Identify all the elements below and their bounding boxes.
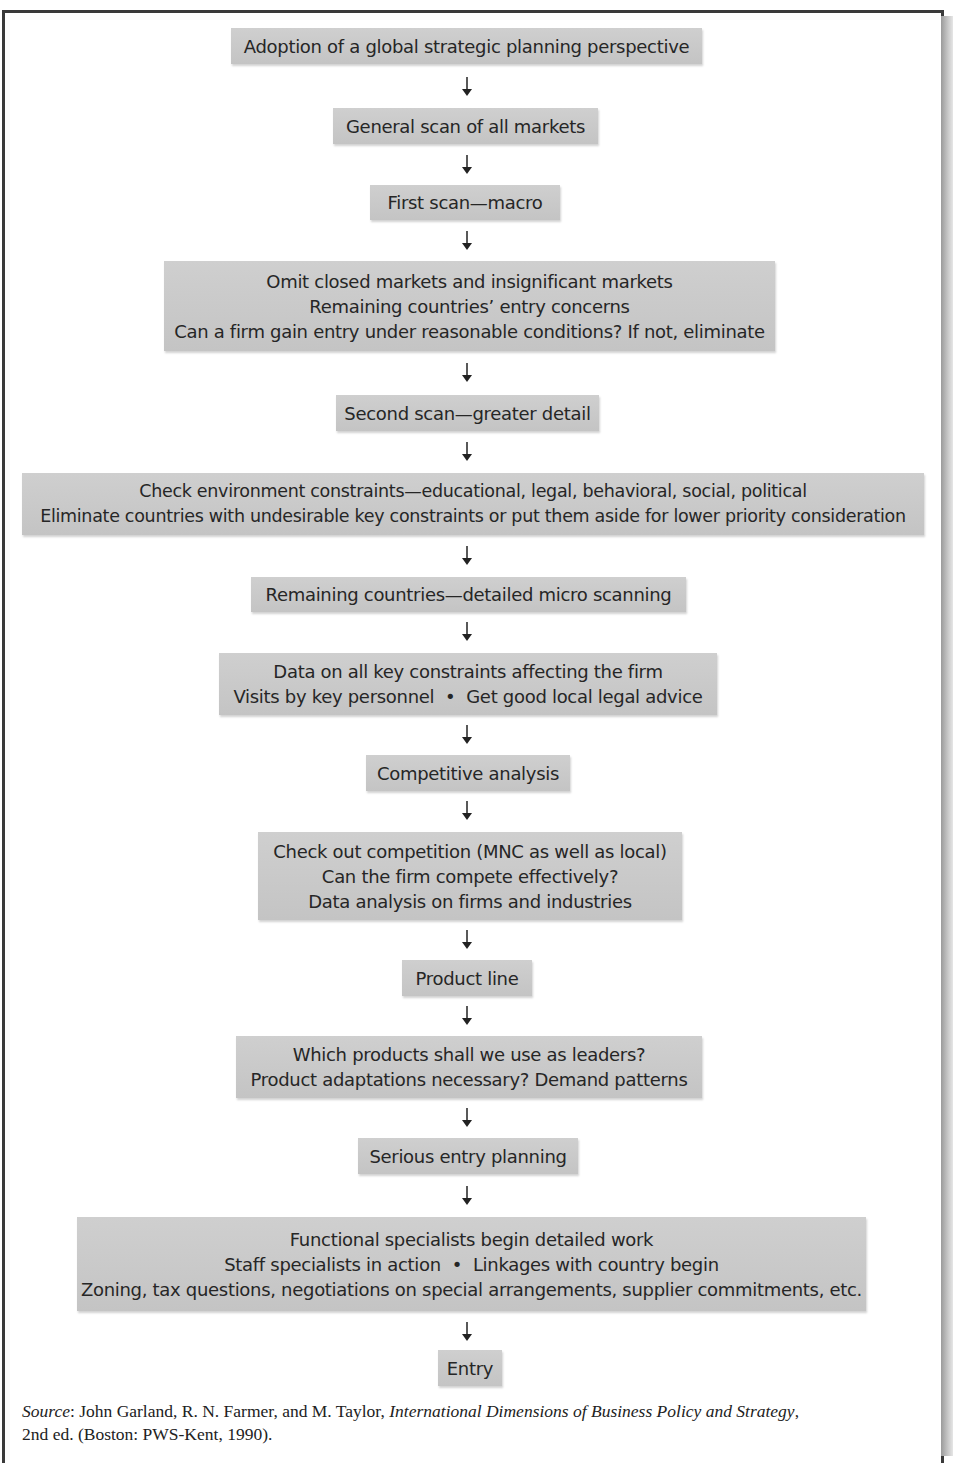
down-arrow-icon (461, 546, 473, 566)
step-entry: Entry (438, 1350, 502, 1386)
down-arrow-icon (461, 622, 473, 642)
step-text: Entry (447, 1356, 493, 1381)
step-text: Product line (416, 966, 519, 991)
down-arrow-icon (461, 1322, 473, 1342)
down-arrow-icon (461, 725, 473, 745)
step-omit-closed-markets: Omit closed markets and insignificant ma… (164, 261, 775, 351)
step-text: Data analysis on firms and industries (308, 889, 632, 914)
source-line-1: Source: John Garland, R. N. Farmer, and … (22, 1400, 937, 1423)
down-arrow-icon (461, 363, 473, 383)
step-second-scan: Second scan—greater detail (336, 395, 599, 431)
step-product-line: Product line (402, 960, 532, 996)
down-arrow-icon (461, 231, 473, 251)
step-check-competition: Check out competition (MNC as well as lo… (258, 832, 682, 920)
step-text: Adoption of a global strategic planning … (244, 34, 690, 59)
step-functional-specialists: Functional specialists begin detailed wo… (77, 1217, 866, 1311)
down-arrow-icon (461, 1186, 473, 1206)
down-arrow-icon (461, 442, 473, 462)
down-arrow-icon (461, 155, 473, 175)
step-text: Data on all key constraints affecting th… (273, 659, 662, 684)
step-check-environment-constraints: Check environment constraints—educationa… (22, 473, 924, 535)
step-text: Omit closed markets and insignificant ma… (266, 269, 672, 294)
down-arrow-icon (461, 1006, 473, 1026)
step-text: Product adaptations necessary? Demand pa… (251, 1067, 688, 1092)
step-first-scan-macro: First scan—macro (370, 185, 560, 220)
step-remaining-countries-micro: Remaining countries—detailed micro scann… (251, 577, 686, 612)
down-arrow-icon (461, 930, 473, 950)
step-text: Can the firm compete effectively? (322, 864, 618, 889)
step-text: Can a firm gain entry under reasonable c… (174, 319, 765, 344)
step-text: Functional specialists begin detailed wo… (290, 1227, 654, 1252)
step-text: Check out competition (MNC as well as lo… (273, 839, 666, 864)
step-text: Check environment constraints—educationa… (139, 479, 806, 504)
step-which-products-leaders: Which products shall we use as leaders? … (236, 1036, 702, 1098)
source-authors: : John Garland, R. N. Farmer, and M. Tay… (70, 1401, 389, 1421)
step-text: Serious entry planning (369, 1144, 566, 1169)
step-text: Second scan—greater detail (344, 401, 590, 426)
frame-shadow (941, 16, 953, 1456)
source-citation: Source: John Garland, R. N. Farmer, and … (22, 1400, 937, 1446)
step-text: Which products shall we use as leaders? (293, 1042, 646, 1067)
source-label: Source (22, 1401, 70, 1421)
step-serious-entry-planning: Serious entry planning (358, 1138, 578, 1174)
step-text: Staff specialists in action • Linkages w… (224, 1252, 719, 1277)
step-text: Eliminate countries with undesirable key… (40, 504, 906, 529)
source-line-2: 2nd ed. (Boston: PWS-Kent, 1990). (22, 1423, 937, 1446)
step-text: Zoning, tax questions, negotiations on s… (81, 1277, 862, 1302)
step-text: General scan of all markets (346, 114, 585, 139)
step-data-key-constraints: Data on all key constraints affecting th… (219, 653, 717, 715)
down-arrow-icon (461, 801, 473, 821)
source-tail: , (795, 1401, 799, 1421)
step-text: Remaining countries’ entry concerns (309, 294, 629, 319)
step-text: Visits by key personnel • Get good local… (233, 684, 702, 709)
step-adoption-global-perspective: Adoption of a global strategic planning … (231, 28, 702, 64)
step-text: Remaining countries—detailed micro scann… (266, 582, 672, 607)
source-title: International Dimensions of Business Pol… (389, 1401, 794, 1421)
step-competitive-analysis: Competitive analysis (366, 755, 570, 791)
down-arrow-icon (461, 1108, 473, 1128)
down-arrow-icon (461, 77, 473, 97)
step-text: First scan—macro (388, 190, 543, 215)
step-text: Competitive analysis (377, 761, 559, 786)
step-general-scan: General scan of all markets (333, 108, 598, 144)
